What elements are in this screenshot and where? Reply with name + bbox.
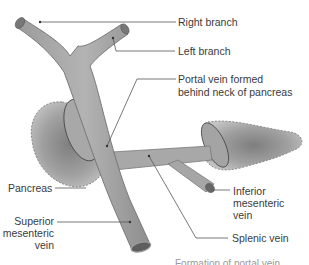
label-imv-3: vein (233, 209, 284, 221)
label-imv: Inferior mesenteric vein (233, 185, 284, 221)
label-smv: Superior mesenteric vein (0, 215, 54, 251)
label-imv-2: mesenteric (233, 197, 284, 209)
portal-vein-diagram: Right branch Left branch Portal vein for… (0, 0, 309, 265)
splenic-vein (112, 146, 212, 170)
label-portal-vein-1: Portal vein formed (178, 73, 263, 85)
label-left-branch: Left branch (178, 45, 231, 57)
pancreas-tail (196, 119, 302, 171)
label-splenic-vein: Splenic vein (232, 232, 289, 244)
label-smv-2: mesenteric (0, 227, 54, 239)
left-branch-leader (113, 38, 175, 51)
label-portal-vein-2: behind neck of pancreas (178, 86, 292, 98)
label-right-branch: Right branch (178, 16, 238, 28)
label-smv-3: vein (0, 239, 54, 251)
figure-caption-cut-off: Formation of portal vein (175, 258, 280, 265)
portal-vein-leader (107, 79, 176, 146)
label-imv-1: Inferior (233, 185, 284, 197)
label-pancreas: Pancreas (8, 182, 52, 194)
label-smv-1: Superior (0, 215, 54, 227)
